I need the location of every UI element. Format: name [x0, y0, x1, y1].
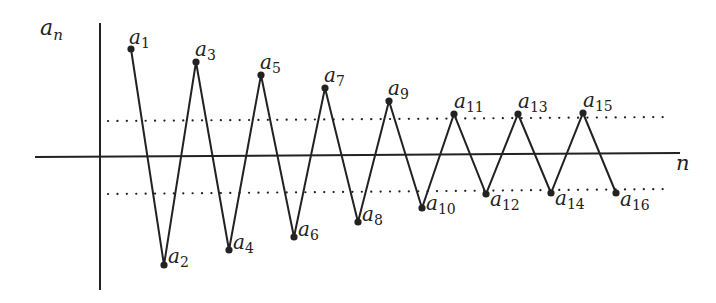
sequence-points [127, 45, 619, 268]
x-axis [35, 153, 680, 157]
y-axis-label: an [40, 15, 63, 44]
point-a12 [482, 190, 489, 197]
label-a8: a8 [362, 202, 383, 228]
label-a3: a3 [195, 37, 216, 63]
label-a16: a16 [620, 187, 650, 213]
point-a16 [612, 189, 619, 196]
sequence-polyline [131, 49, 616, 265]
diagram-svg: a1a2a3a4a5a6a7a8a9a10a11a12a13a14a15a16 … [0, 0, 716, 303]
label-a10: a10 [426, 191, 456, 217]
point-a10 [418, 204, 425, 211]
label-a11: a11 [454, 89, 484, 115]
point-a2 [160, 261, 167, 268]
point-a4 [225, 246, 232, 253]
point-a8 [354, 218, 361, 225]
x-axis-label: n [676, 151, 690, 175]
label-a15: a15 [583, 88, 613, 114]
label-a2: a2 [168, 244, 189, 270]
label-a5: a5 [260, 50, 281, 76]
sequence-diagram: a1a2a3a4a5a6a7a8a9a10a11a12a13a14a15a16 … [0, 0, 716, 303]
label-a14: a14 [555, 186, 585, 212]
label-a4: a4 [233, 230, 254, 256]
label-a12: a12 [490, 187, 520, 213]
lower-bound-line [108, 189, 668, 194]
point-labels: a1a2a3a4a5a6a7a8a9a10a11a12a13a14a15a16 [129, 25, 650, 270]
label-a9: a9 [388, 76, 409, 102]
label-a1: a1 [129, 25, 150, 51]
point-a6 [290, 233, 297, 240]
label-a7: a7 [324, 63, 345, 89]
point-a14 [547, 189, 554, 196]
label-a6: a6 [298, 217, 319, 243]
label-a13: a13 [518, 89, 548, 115]
